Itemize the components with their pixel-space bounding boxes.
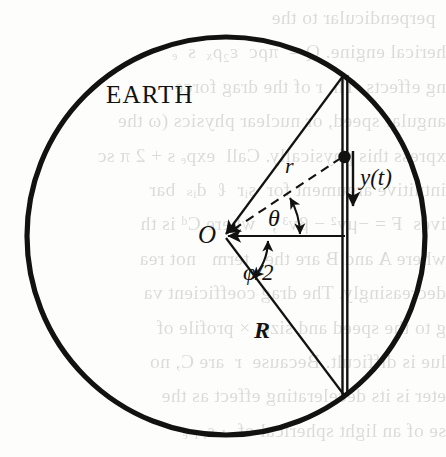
r-label: r (285, 155, 294, 177)
figure-page: perpendicular to the herical engine. Q =… (0, 0, 446, 457)
theta-arc (290, 198, 300, 234)
phi-half-label: φ/2 (243, 261, 274, 284)
particle-dot (338, 151, 350, 163)
center-label: O (198, 222, 216, 247)
displacement-label: y(t) (360, 166, 392, 189)
earth-label: EARTH (106, 82, 194, 107)
theta-label: θ (268, 206, 280, 230)
radius-label: R (254, 318, 270, 342)
earth-circle (27, 37, 425, 435)
earth-tunnel-diagram (0, 0, 446, 457)
